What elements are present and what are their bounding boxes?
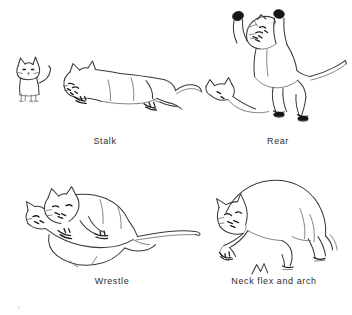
stalking-cat-icon (0, 40, 210, 140)
stalking-cat-body (64, 61, 202, 110)
panel-caption-wrestle: Wrestle (14, 276, 210, 287)
rear-illustration (204, 0, 352, 136)
ground-mark (252, 264, 268, 274)
neck-flex-illustration (196, 168, 352, 278)
panel-caption-rear: Rear (204, 136, 352, 147)
panel-rear: Rear (204, 0, 352, 152)
panel-wrestle: Wrestle (14, 172, 210, 290)
wrestle-illustration (14, 172, 210, 278)
arching-cat-icon (196, 168, 352, 278)
stalk-illustration (0, 40, 210, 140)
raised-forepaws (231, 9, 287, 45)
rearing-cat-head (247, 15, 276, 49)
wrestling-cats-icon (14, 172, 210, 278)
rearing-cat-torso (254, 45, 346, 97)
seated-partner-cat (206, 78, 269, 113)
panel-neck-flex-and-arch: Neck flex and arch (196, 168, 352, 290)
paper-speck (17, 306, 20, 309)
rearing-cat-icon (204, 0, 352, 136)
figure-root: Stalk (0, 0, 352, 315)
rearing-cat-hind-legs (272, 88, 308, 122)
arched-back (226, 180, 326, 236)
flexed-head (217, 194, 248, 235)
upper-wrestling-cat (45, 187, 200, 240)
panel-caption-neck-flex-and-arch: Neck flex and arch (196, 276, 352, 287)
panel-stalk: Stalk (0, 40, 210, 152)
panel-caption-stalk: Stalk (0, 136, 210, 147)
foreleg (220, 231, 248, 260)
standing-kitten-icon (17, 57, 51, 101)
